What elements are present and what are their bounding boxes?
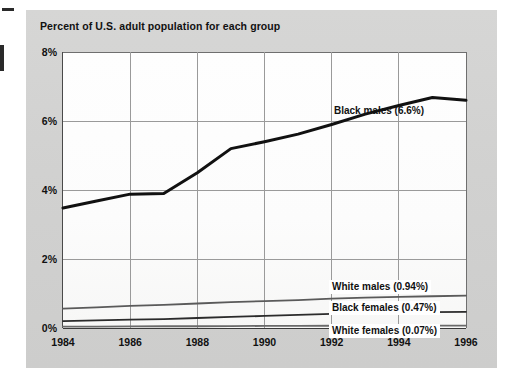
chart-title: Percent of U.S. adult population for eac… (40, 20, 280, 32)
x-tick-1996: 1996 (454, 336, 477, 348)
series-annotation-white-males: White males (0.94%) (329, 280, 431, 294)
plot-area: 0%2%4%6%8% 1984198619881990199219941996 … (62, 52, 466, 328)
y-tick-2%: 2% (42, 253, 57, 265)
y-tick-6%: 6% (42, 115, 57, 127)
series-annotation-black-females: Black females (0.47%) (329, 301, 440, 315)
x-tick-1988: 1988 (186, 336, 209, 348)
series-annotation-white-females: White females (0.07%) (329, 324, 440, 338)
page-edge-mark-middle (0, 45, 4, 71)
y-tick-4%: 4% (42, 184, 57, 196)
x-tick-1984: 1984 (51, 336, 74, 348)
y-tick-8%: 8% (42, 46, 57, 58)
page-edge-mark-top (2, 8, 14, 11)
series-annotation-black-males: Black males (6.6%) (331, 104, 427, 118)
chart-card: Percent of U.S. adult population for eac… (26, 10, 497, 368)
x-tick-1986: 1986 (118, 336, 141, 348)
x-tick-1990: 1990 (253, 336, 276, 348)
y-tick-0%: 0% (42, 322, 57, 334)
